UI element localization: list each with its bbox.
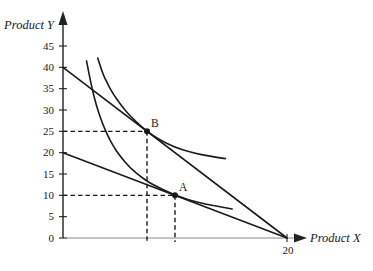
indifference-curve-figure: 05101520253035404520Product YProduct XBA xyxy=(0,0,373,271)
y-tick-label-5: 5 xyxy=(49,210,55,222)
x-axis-title: Product X xyxy=(309,231,362,245)
point-label-b: B xyxy=(151,117,159,129)
point-marker-b xyxy=(144,128,150,134)
chart-canvas: 05101520253035404520Product YProduct XBA xyxy=(0,0,373,271)
y-tick-label-15: 15 xyxy=(43,168,55,180)
y-tick-label-35: 35 xyxy=(43,82,55,94)
y-axis-title: Product Y xyxy=(3,18,56,32)
x-axis-arrowhead-icon xyxy=(294,234,307,243)
y-tick-label-45: 45 xyxy=(43,40,55,52)
y-tick-label-40: 40 xyxy=(43,61,55,73)
indifference-curve-low xyxy=(87,61,233,209)
point-label-a: A xyxy=(179,181,188,193)
y-tick-label-10: 10 xyxy=(43,189,55,201)
point-marker-a xyxy=(172,192,178,198)
y-tick-label-0: 0 xyxy=(49,232,55,244)
y-axis-arrowhead-icon xyxy=(59,11,68,25)
y-tick-label-30: 30 xyxy=(43,104,55,116)
y-tick-label-25: 25 xyxy=(43,125,55,137)
y-tick-label-20: 20 xyxy=(43,146,55,158)
x-tick-label-20: 20 xyxy=(283,244,295,256)
